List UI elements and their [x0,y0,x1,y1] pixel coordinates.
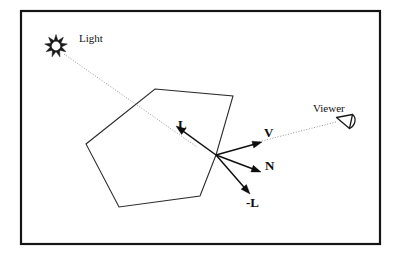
vector-V-label: V [264,125,274,140]
sun-icon [45,35,68,57]
surface-polygon [86,89,233,207]
vector-V [216,141,262,155]
lighting-diagram-figure: Light Viewer L V N -L [0,0,397,256]
diagram-canvas: Light Viewer L V N -L [0,0,397,256]
vector-N-label: N [265,158,275,173]
vector-negative-L-label: -L [246,195,259,210]
diagram-border [21,11,380,244]
eye-icon [337,115,356,129]
light-ray-dotted [64,54,197,147]
viewer-label: Viewer [313,102,345,114]
vector-L-label: L [178,117,187,132]
light-label: Light [79,32,103,44]
